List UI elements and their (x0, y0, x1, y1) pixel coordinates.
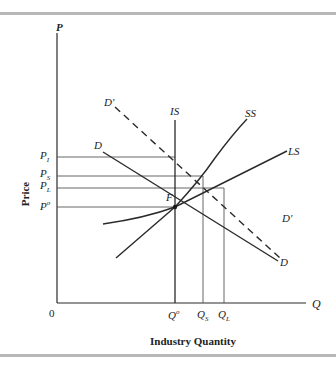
price-axis-symbol: P (56, 22, 63, 33)
quantity-axis-title: Industry Quantity (150, 335, 236, 347)
label-curve-D-prime-bottom: D′ (282, 213, 292, 224)
label-P-o: Po (40, 200, 50, 212)
label-curve-IS: IS (170, 106, 179, 117)
quantity-axis-symbol: Q (312, 298, 321, 310)
label-curve-D-top: D (94, 140, 102, 151)
label-Q-o: Qo (168, 309, 179, 321)
label-point-F: F (166, 192, 173, 203)
label-Q-S: QS (197, 309, 208, 323)
price-axis-title: Price (19, 177, 31, 211)
equilibrium-point-F (173, 205, 177, 209)
label-curve-D-bottom: D (280, 257, 288, 268)
label-curve-D-prime-top: D′ (104, 97, 114, 108)
label-curve-SS: SS (245, 108, 256, 119)
label-curve-LS: LS (288, 146, 300, 157)
curve-D-prime (115, 107, 280, 258)
label-P-I: PI (40, 150, 49, 164)
origin-label: 0 (49, 308, 55, 319)
curve-LS (103, 151, 287, 224)
label-P-L: PL (40, 180, 51, 194)
curve-SS (116, 119, 247, 258)
label-Q-L: QL (218, 309, 230, 323)
